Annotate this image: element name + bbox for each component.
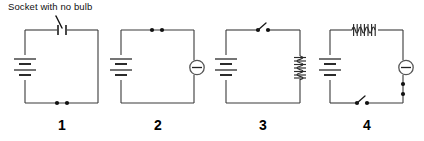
circuit-3 (215, 23, 306, 103)
circuit-4-switch-open[interactable] (355, 96, 369, 105)
circuit-1-battery (14, 59, 36, 75)
circuit-3-label: 3 (226, 117, 300, 133)
circuit-3-switch-open[interactable] (256, 23, 270, 32)
circuit-3-coil-resistor (294, 56, 306, 80)
annotation-leader-line (56, 16, 62, 28)
circuit-4-lamp (399, 60, 413, 74)
circuit-1-wires (25, 30, 98, 103)
circuit-4-label: 4 (330, 117, 404, 133)
circuit-4 (319, 24, 413, 105)
circuit-4-wires (330, 30, 403, 103)
circuit-1 (14, 25, 98, 105)
circuit-2-battery (110, 59, 132, 75)
circuit-3-wires (226, 30, 300, 103)
circuit-4-battery (319, 59, 341, 75)
circuit-3-battery (215, 59, 237, 75)
figure-canvas: Socket with no bulb (0, 0, 424, 141)
circuit-2-wires (121, 30, 194, 103)
circuit-2 (110, 28, 204, 103)
circuit-4-coil-resistor (352, 24, 375, 36)
circuit-2-lamp (190, 60, 204, 74)
circuit-1-label: 1 (25, 117, 99, 133)
circuit-2-label: 2 (121, 117, 195, 133)
